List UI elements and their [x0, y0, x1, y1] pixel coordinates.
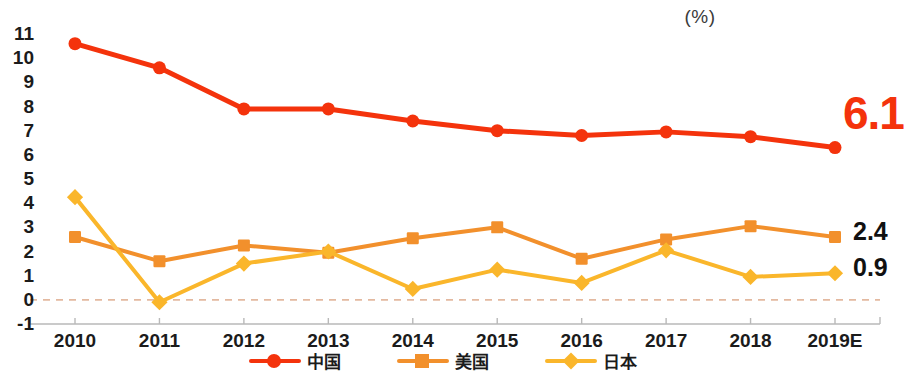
y-axis-tick-label: 11: [0, 23, 34, 45]
legend-item-japan[interactable]: 日本: [545, 348, 637, 373]
legend-label: 中国: [307, 348, 341, 373]
legend-item-usa[interactable]: 美国: [397, 348, 489, 373]
y-axis-tick-label: 9: [0, 71, 34, 93]
y-axis-tick-label: -1: [0, 313, 34, 335]
series-end-label: 0.9: [853, 253, 888, 282]
y-axis-tick-label: 3: [0, 216, 34, 238]
chart-legend: 中国美国日本: [0, 348, 886, 373]
y-axis-tick-label: 0: [0, 289, 34, 311]
legend-circle-icon: [249, 352, 301, 370]
y-axis-tick-label: 10: [0, 47, 34, 69]
y-axis-tick-label: 6: [0, 144, 34, 166]
series-end-label: 2.4: [853, 217, 888, 246]
legend-diamond-icon: [545, 352, 597, 370]
y-axis-tick-label: 1: [0, 265, 34, 287]
legend-label: 日本: [603, 348, 637, 373]
series-japan: [67, 189, 843, 310]
legend-label: 美国: [455, 348, 489, 373]
legend-square-icon: [397, 352, 449, 370]
legend-item-china[interactable]: 中国: [249, 348, 341, 373]
series-end-label: 6.1: [843, 86, 904, 140]
y-axis-tick-label: 5: [0, 168, 34, 190]
y-axis-tick-label: 7: [0, 120, 34, 142]
y-axis-tick-label: 2: [0, 241, 34, 263]
series-china: [69, 37, 842, 154]
y-axis-tick-label: 8: [0, 96, 34, 118]
series-usa: [69, 220, 841, 267]
y-axis-tick-label: 4: [0, 192, 34, 214]
